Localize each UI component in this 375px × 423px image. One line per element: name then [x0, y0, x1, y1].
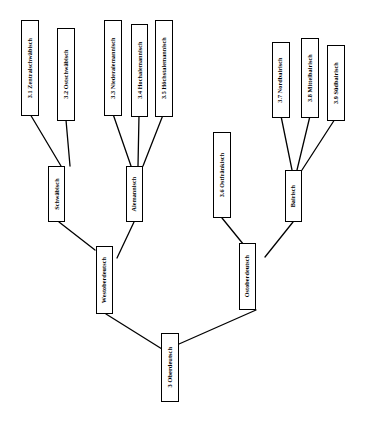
node-label: 3.9 Südbairisch — [333, 62, 339, 104]
node-zentralschwaebisch[interactable]: 3.1 Zentralschwäbisch — [21, 20, 39, 116]
node-hoechstalemannisch[interactable]: 3.5 Höchstalemannisch — [155, 20, 173, 117]
node-label: 3.4 Hochalemannisch — [136, 42, 142, 99]
node-label: Schwäbisch — [53, 178, 59, 209]
node-label: 3.3 Niederalemannisch — [110, 37, 116, 98]
node-bairisch[interactable]: Bairisch — [285, 170, 302, 222]
dialect-tree-diagram: 3.1 Zentralschwäbisch 3.2 Ostschwäbisch … — [0, 0, 375, 423]
node-label: 3.6 Ostfränkisch — [219, 153, 225, 197]
node-schwaebisch[interactable]: Schwäbisch — [48, 166, 65, 222]
node-ostschwaebisch[interactable]: 3.2 Ostschwäbisch — [57, 28, 75, 121]
edge-zentralschwaebisch-schwaebisch — [30, 114, 61, 166]
node-oberdeutsch[interactable]: 3 Oberdeutsch — [161, 333, 179, 402]
node-label: 3.2 Ostschwäbisch — [63, 50, 69, 99]
edge-ostschwaebisch-schwaebisch — [66, 120, 70, 166]
edge-westoberdeutsch-oberdeutsch — [106, 314, 162, 349]
node-label: Westoberdeutsch — [101, 257, 107, 303]
node-label: Ostoberdeutsch — [244, 255, 250, 297]
edge-niederalemannisch-alemannisch — [113, 114, 131, 166]
node-label: 3.1 Zentralschwäbisch — [27, 38, 33, 98]
edge-bairisch-ostoberdeutsch — [265, 222, 293, 257]
node-label: Bairisch — [290, 185, 296, 207]
node-alemannisch[interactable]: Alemannisch — [126, 166, 143, 222]
node-label: 3.8 Mittelbairisch — [307, 54, 313, 102]
edge-schwaebisch-westoberdeutsch — [59, 222, 95, 250]
node-ostoberdeutsch[interactable]: Ostoberdeutsch — [239, 243, 256, 310]
edge-nordbairisch-bairisch — [281, 116, 292, 170]
node-westoberdeutsch[interactable]: Westoberdeutsch — [96, 246, 113, 314]
node-nordbairisch[interactable]: 3.7 Nordbairisch — [272, 42, 290, 118]
edge-mittelbairisch-bairisch — [297, 116, 310, 170]
edge-alemannisch-westoberdeutsch — [117, 222, 134, 258]
node-hochalemannisch[interactable]: 3.4 Hochalemannisch — [131, 24, 148, 117]
edge-ostoberdeutsch-oberdeutsch — [179, 310, 256, 344]
node-suedbairisch[interactable]: 3.9 Südbairisch — [327, 45, 345, 121]
edge-hoechstalemannisch-alemannisch — [143, 115, 163, 166]
edge-hochalemannisch-alemannisch — [138, 115, 139, 166]
node-label: 3.7 Nordbairisch — [278, 57, 284, 102]
node-label: 3 Oberdeutsch — [167, 347, 173, 388]
node-mittelbairisch[interactable]: 3.8 Mittelbairisch — [301, 38, 319, 118]
node-ostfraenkisch[interactable]: 3.6 Ostfränkisch — [213, 132, 231, 218]
node-niederalemannisch[interactable]: 3.3 Niederalemannisch — [104, 20, 122, 116]
node-label: 3.5 Höchstalemannisch — [161, 38, 167, 100]
edge-suedbairisch-bairisch — [302, 119, 335, 170]
node-label: Alemannisch — [131, 177, 137, 212]
